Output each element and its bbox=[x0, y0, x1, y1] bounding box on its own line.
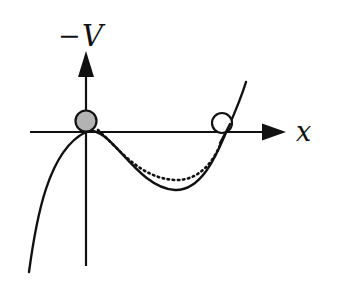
x-axis-label: x bbox=[296, 116, 311, 147]
y-axis-arrowhead-icon bbox=[78, 51, 94, 77]
y-axis-label-var: V bbox=[82, 19, 106, 53]
y-axis-label-sign: − bbox=[58, 20, 81, 51]
potential-diagram: x − V bbox=[0, 0, 347, 286]
potential-dotted-curve bbox=[98, 130, 222, 180]
diagram-svg: x − V bbox=[0, 0, 347, 286]
ball-right bbox=[212, 113, 232, 133]
potential-solid-curve bbox=[29, 82, 246, 272]
x-axis bbox=[30, 124, 286, 141]
y-axis bbox=[78, 51, 94, 266]
ball-origin bbox=[76, 111, 97, 132]
x-axis-arrowhead-icon bbox=[262, 124, 286, 141]
